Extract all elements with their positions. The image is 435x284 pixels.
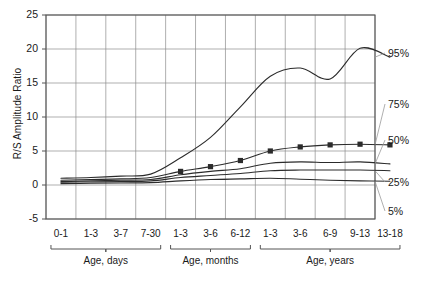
x-axis-group-label: Age, years bbox=[270, 255, 390, 266]
series-label-25pct: 25% bbox=[388, 176, 409, 188]
series-label-75pct: 75% bbox=[388, 98, 409, 110]
series-label-95pct: 95% bbox=[388, 47, 409, 59]
x-tick-label: 13-18 bbox=[364, 228, 416, 239]
y-tick-label: 5 bbox=[12, 144, 38, 156]
series-label-50pct: 50% bbox=[388, 134, 409, 146]
y-tick-label: 0 bbox=[12, 178, 38, 190]
y-tick-label: -5 bbox=[12, 212, 38, 224]
x-axis-group-label: Age, days bbox=[46, 255, 166, 266]
y-tick-label: 20 bbox=[12, 42, 38, 54]
y-tick-label: 25 bbox=[12, 8, 38, 20]
series-label-5pct: 5% bbox=[388, 205, 403, 217]
chart-canvas bbox=[0, 0, 435, 284]
y-tick-label: 15 bbox=[12, 76, 38, 88]
chart-figure: R/S Amplitude Ratio -505101520250-11-33-… bbox=[0, 0, 435, 284]
x-axis-group-label: Age, months bbox=[151, 255, 271, 266]
y-tick-label: 10 bbox=[12, 110, 38, 122]
